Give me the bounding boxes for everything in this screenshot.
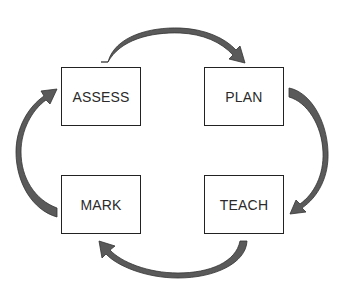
node-assess: ASSESS (61, 67, 141, 126)
node-assess-label: ASSESS (72, 89, 129, 105)
arrow-plan-to-teach (289, 88, 328, 214)
node-plan-label: PLAN (225, 89, 262, 105)
node-mark: MARK (61, 175, 141, 234)
cycle-diagram: ASSESS PLAN TEACH MARK (0, 0, 344, 297)
node-teach-label: TEACH (220, 197, 268, 213)
node-plan: PLAN (204, 67, 284, 126)
arrow-assess-to-plan (101, 28, 245, 63)
cycle-arrows (0, 0, 344, 297)
node-mark-label: MARK (80, 197, 121, 213)
node-teach: TEACH (204, 175, 284, 234)
arrow-teach-to-mark (99, 241, 247, 278)
arrow-mark-to-assess (16, 89, 57, 217)
